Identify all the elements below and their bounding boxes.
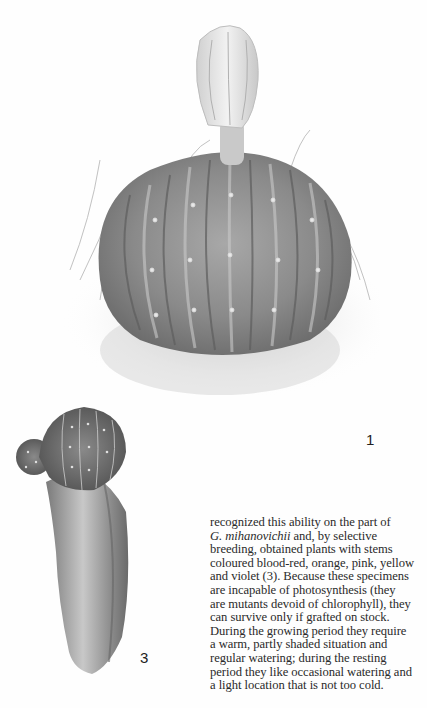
text-line: can survive only if grafted on stock.	[210, 611, 425, 625]
text-line: and violet (3). Because these specimens	[210, 570, 425, 584]
text-line: a warm, partly shaded situation and	[210, 638, 425, 652]
text-line: a light location that is not too cold.	[210, 679, 425, 693]
text-line: coloured blood-red, orange, pink, yellow	[210, 557, 425, 571]
figure-label-1: 1	[366, 432, 374, 447]
text-line: regular watering; during the resting	[210, 652, 425, 666]
book-page: 1 3	[0, 0, 427, 708]
text-line: recognized this ability on the part of	[210, 516, 425, 530]
text-line: period they like occasional watering and	[210, 666, 425, 680]
cactus-illustration-3	[14, 402, 134, 682]
text-line: breeding, obtained plants with stems	[210, 543, 425, 557]
species-name: G. mihanovichii	[210, 529, 290, 543]
text-line: are mutants devoid of chlorophyll), they	[210, 598, 425, 612]
body-text: recognized this ability on the part of G…	[210, 516, 425, 693]
text-line: During the growing period they require	[210, 625, 425, 639]
text-line: are incapable of photosynthesis (they	[210, 584, 425, 598]
figure-label-3: 3	[140, 650, 148, 665]
text-line: G. mihanovichii and, by selective	[210, 530, 425, 544]
cactus-illustration-1	[60, 20, 380, 420]
